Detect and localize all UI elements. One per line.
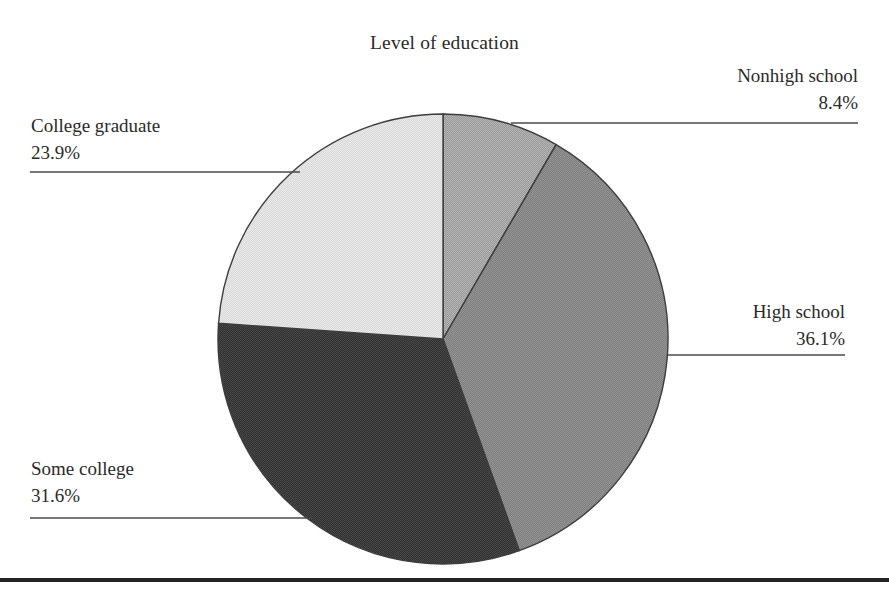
callout-nonhigh-school-category: Nonhigh school <box>558 62 858 89</box>
bottom-rule-divider <box>0 578 889 582</box>
callout-some-college-percent: 31.6% <box>31 482 351 509</box>
callout-some-college: Some college 31.6% <box>31 455 351 509</box>
callout-high-school: High school 36.1% <box>545 298 845 352</box>
callout-high-school-category: High school <box>545 298 845 325</box>
callout-college-graduate: College graduate 23.9% <box>31 112 351 166</box>
pie-chart-figure: Level of education <box>0 0 889 595</box>
callout-some-college-category: Some college <box>31 455 351 482</box>
callout-nonhigh-school-percent: 8.4% <box>558 89 858 116</box>
callout-nonhigh-school: Nonhigh school 8.4% <box>558 62 858 116</box>
callout-college-graduate-category: College graduate <box>31 112 351 139</box>
callout-college-graduate-percent: 23.9% <box>31 139 351 166</box>
callout-high-school-percent: 36.1% <box>545 325 845 352</box>
